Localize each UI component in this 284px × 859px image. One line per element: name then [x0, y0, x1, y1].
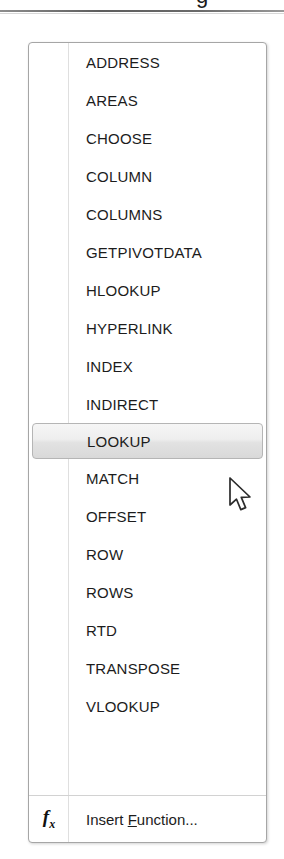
function-menu-item-label: MATCH	[86, 470, 139, 487]
function-menu-item-label: HLOOKUP	[86, 282, 161, 299]
function-menu-item[interactable]: MATCH	[29, 459, 266, 497]
insert-function-label-before: Insert	[86, 811, 128, 828]
function-menu-item-label: INDEX	[86, 358, 133, 375]
function-list: ADDRESSAREASCHOOSECOLUMNCOLUMNSGETPIVOTD…	[29, 43, 266, 795]
function-menu-item-label: ROW	[86, 546, 123, 563]
function-menu-item[interactable]: ADDRESS	[29, 43, 266, 81]
function-menu-item[interactable]: COLUMN	[29, 157, 266, 195]
function-menu-item[interactable]: LOOKUP	[32, 423, 263, 459]
function-menu-item[interactable]: CHOOSE	[29, 119, 266, 157]
function-menu-item[interactable]: HYPERLINK	[29, 309, 266, 347]
function-menu-item-label: LOOKUP	[87, 433, 151, 450]
function-menu-item-label: OFFSET	[86, 508, 146, 525]
function-menu-item-label: CHOOSE	[86, 130, 152, 147]
function-menu-item[interactable]: OFFSET	[29, 497, 266, 535]
function-menu-item[interactable]: VLOOKUP	[29, 687, 266, 725]
insert-function-label-after: unction...	[137, 811, 198, 828]
function-menu-item-label: HYPERLINK	[86, 320, 173, 337]
function-menu-item[interactable]: COLUMNS	[29, 195, 266, 233]
function-menu-item[interactable]: HLOOKUP	[29, 271, 266, 309]
cut-off-glyph: g	[196, 0, 208, 7]
horizontal-rule-shadow	[0, 13, 284, 14]
function-menu-item-label: INDIRECT	[86, 396, 158, 413]
function-menu-item-label: AREAS	[86, 92, 138, 109]
function-menu-item[interactable]: RTD	[29, 611, 266, 649]
function-menu-item[interactable]: GETPIVOTDATA	[29, 233, 266, 271]
function-menu-item[interactable]: TRANSPOSE	[29, 649, 266, 687]
function-menu-item-label: VLOOKUP	[86, 698, 160, 715]
horizontal-rule	[0, 10, 284, 12]
cut-off-ribbon-remnant: g	[0, 0, 284, 14]
function-menu-item-label: COLUMN	[86, 168, 152, 185]
function-menu-item[interactable]: INDEX	[29, 347, 266, 385]
insert-function-menu-item[interactable]: fx Insert Function...	[29, 796, 266, 842]
function-menu-item-label: ADDRESS	[86, 54, 160, 71]
fx-icon: fx	[29, 806, 69, 832]
function-dropdown-menu: ADDRESSAREASCHOOSECOLUMNCOLUMNSGETPIVOTD…	[28, 42, 267, 843]
function-menu-item[interactable]: ROWS	[29, 573, 266, 611]
function-menu-item[interactable]: AREAS	[29, 81, 266, 119]
fx-icon-subscript: x	[49, 817, 55, 831]
function-menu-item-label: COLUMNS	[86, 206, 162, 223]
insert-function-label: Insert Function...	[69, 811, 198, 828]
function-menu-item[interactable]: INDIRECT	[29, 385, 266, 423]
function-menu-item[interactable]: ROW	[29, 535, 266, 573]
function-menu-item-label: RTD	[86, 622, 117, 639]
function-menu-item-label: TRANSPOSE	[86, 660, 180, 677]
function-menu-item-label: GETPIVOTDATA	[86, 244, 202, 261]
insert-function-accesskey: F	[128, 811, 137, 828]
function-menu-item-label: ROWS	[86, 584, 133, 601]
